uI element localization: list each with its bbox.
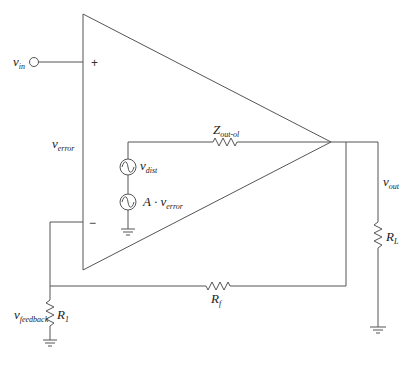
z-out-resistor — [213, 138, 237, 146]
minus-sign: − — [89, 216, 96, 230]
r-1-label: R1 — [56, 307, 69, 324]
plus-sign: + — [91, 56, 98, 70]
r-f-resistor — [206, 282, 230, 290]
r-l-resistor — [374, 222, 382, 248]
v-dist-label: vdist — [140, 158, 158, 175]
ground-internal — [121, 210, 135, 235]
ground-load — [370, 327, 386, 333]
sine-icon — [122, 162, 134, 173]
r-f-label: Rf — [210, 291, 223, 308]
internal-wire — [128, 142, 213, 159]
r-l-label: RL — [385, 229, 399, 246]
sine-icon — [122, 197, 134, 208]
minus-input-wire — [50, 222, 83, 300]
v-out-label: vout — [383, 174, 400, 191]
circuit-diagram: + − vin verror Zout-ol vdist A · verror — [0, 0, 410, 366]
gain-source-label: A · verror — [142, 194, 184, 211]
gain-source — [120, 194, 136, 210]
v-feedback-label: vfeedback — [14, 307, 49, 324]
feedback-right-wire — [230, 142, 346, 286]
z-out-label: Zout-ol — [213, 122, 240, 139]
v-in-label: vin — [13, 54, 25, 71]
v-error-label: verror — [52, 136, 75, 153]
input-terminal — [30, 58, 39, 67]
ground-r1 — [43, 340, 57, 346]
v-dist-source — [120, 159, 136, 175]
